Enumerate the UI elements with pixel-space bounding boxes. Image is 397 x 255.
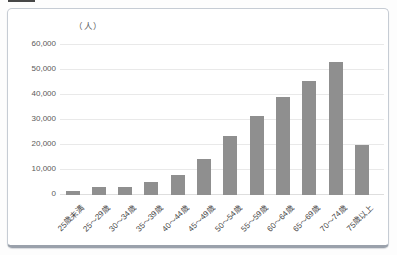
x-tick-label: 45〜49歳 (185, 202, 217, 234)
bar (223, 136, 237, 195)
bar (197, 159, 211, 195)
x-tick-label: 25歳未満 (54, 202, 85, 233)
gridline (60, 44, 384, 45)
x-tick-label: 60〜64歳 (264, 202, 296, 234)
bar (118, 187, 132, 195)
bar (66, 191, 80, 195)
x-tick-label: 40〜44歳 (159, 202, 191, 234)
y-axis-unit-label: （人） (74, 19, 103, 31)
x-tick-label: 65〜69歳 (290, 202, 322, 234)
y-tick-label: 0 (16, 189, 56, 198)
y-tick-label: 60,000 (16, 39, 56, 48)
x-tick-label: 50〜54歳 (211, 202, 243, 234)
x-tick-label: 25〜29歳 (80, 202, 112, 234)
bar (92, 187, 106, 194)
x-tick-label: 30〜34歳 (106, 202, 138, 234)
cropped-caption-fragment (8, 0, 35, 2)
x-tick-label: 75歳以上 (344, 202, 375, 233)
x-tick-label: 70〜74歳 (317, 202, 349, 234)
y-tick-label: 40,000 (16, 89, 56, 98)
bar (250, 116, 264, 195)
y-tick-label: 50,000 (16, 64, 56, 73)
y-tick-label: 30,000 (16, 114, 56, 123)
chart-card: （人） 010,00020,00030,00040,00050,00060,00… (7, 8, 389, 248)
page-background: （人） 010,00020,00030,00040,00050,00060,00… (0, 0, 397, 255)
bar (329, 62, 343, 194)
y-tick-label: 10,000 (16, 164, 56, 173)
x-tick-label: 55〜59歳 (238, 202, 270, 234)
x-tick-label: 35〜39歳 (133, 202, 165, 234)
bar (355, 145, 369, 195)
bar (144, 182, 158, 194)
bar (171, 175, 185, 195)
bar (302, 81, 316, 195)
y-tick-label: 20,000 (16, 139, 56, 148)
bar (276, 97, 290, 194)
